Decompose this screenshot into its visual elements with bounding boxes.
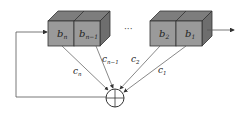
register-group-right: b2 b1 bbox=[150, 11, 212, 46]
lfsr-diagram: bn bn−1 ··· b2 b1 cn cn−1 c2 c1 bbox=[0, 0, 247, 115]
register-group-left: bn bn−1 bbox=[48, 11, 110, 46]
tap-line-c-2 bbox=[120, 46, 160, 89]
ellipsis: ··· bbox=[124, 24, 133, 34]
xor-adder-icon bbox=[106, 89, 124, 107]
tap-line-c-n-minus-1 bbox=[96, 46, 113, 88]
coef-label-c-n: cn bbox=[73, 66, 82, 77]
tap-line-c-1 bbox=[124, 46, 186, 92]
coef-label-c-n-minus-1: cn−1 bbox=[102, 54, 119, 65]
tap-line-c-n bbox=[62, 46, 108, 90]
coef-label-c-1: c1 bbox=[158, 65, 167, 76]
coef-label-c-2: c2 bbox=[131, 54, 140, 65]
